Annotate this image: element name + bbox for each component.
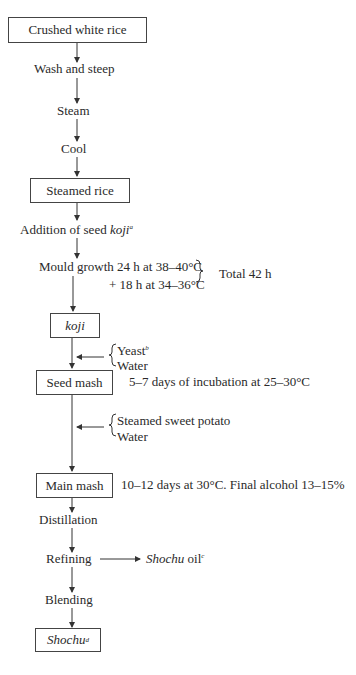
input-yeast: Yeastb bbox=[117, 343, 149, 359]
text: Yeast bbox=[117, 343, 145, 358]
step-label: Steamed rice bbox=[46, 183, 114, 199]
byproduct-shochu-oil: Shochu oilc bbox=[146, 551, 204, 567]
step-blending: Blending bbox=[45, 592, 93, 608]
seed-mash-note: 5–7 days of incubation at 25–30°C bbox=[129, 374, 310, 390]
step-label: Crushed white rice bbox=[28, 22, 126, 38]
text: oil bbox=[184, 551, 201, 566]
mould-total: Total 42 h bbox=[219, 266, 272, 282]
step-crushed-white-rice: Crushed white rice bbox=[8, 17, 147, 43]
footnote-d: d bbox=[85, 636, 89, 644]
step-addition-seed-koji: Addition of seed kojia bbox=[20, 222, 133, 238]
footnote-a: a bbox=[129, 223, 133, 231]
step-mould-growth-1: Mould growth 24 h at 38–40°C bbox=[39, 259, 202, 275]
step-mould-growth-2: + 18 h at 34–36°C bbox=[109, 277, 205, 293]
step-refining: Refining bbox=[46, 551, 92, 567]
step-steam: Steam bbox=[57, 103, 90, 119]
step-steamed-rice: Steamed rice bbox=[30, 178, 130, 203]
footnote-c: c bbox=[201, 552, 204, 560]
brace-potato bbox=[109, 414, 116, 436]
main-mash-note: 10–12 days at 30°C. Final alcohol 13–15% bbox=[121, 477, 345, 493]
step-wash-steep: Wash and steep bbox=[34, 61, 115, 77]
step-label: Shochu bbox=[47, 632, 85, 648]
step-distillation: Distillation bbox=[39, 512, 98, 528]
input-water-1: Water bbox=[117, 358, 148, 374]
step-koji: koji bbox=[50, 313, 100, 338]
brace-yeast bbox=[109, 344, 116, 366]
step-shochu: Shochud bbox=[35, 628, 101, 652]
step-cool: Cool bbox=[61, 141, 86, 157]
input-water-2: Water bbox=[117, 429, 148, 445]
step-label: Main mash bbox=[45, 478, 103, 494]
step-seed-mash: Seed mash bbox=[36, 370, 113, 395]
footnote-b: b bbox=[145, 344, 149, 352]
input-sweet-potato: Steamed sweet potato bbox=[117, 413, 230, 429]
step-main-mash: Main mash bbox=[36, 473, 113, 498]
text: Addition of seed bbox=[20, 222, 110, 237]
koji-term: koji bbox=[110, 222, 130, 237]
step-label: Seed mash bbox=[47, 375, 103, 391]
step-label: koji bbox=[65, 318, 85, 334]
shochu-term: Shochu bbox=[146, 551, 184, 566]
